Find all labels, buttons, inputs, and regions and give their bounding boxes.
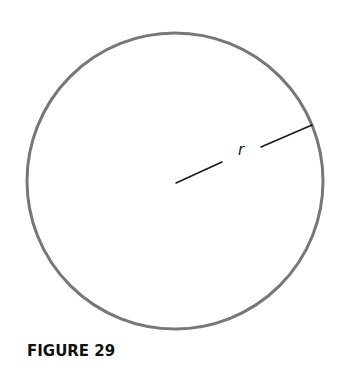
radius-label: r: [238, 143, 244, 158]
figure-caption: FIGURE 29: [27, 344, 115, 359]
circle-outline: [27, 33, 323, 329]
radius-line-segment: [261, 125, 312, 147]
circle-diagram: [0, 0, 345, 369]
radius-line-segment: [176, 162, 222, 183]
